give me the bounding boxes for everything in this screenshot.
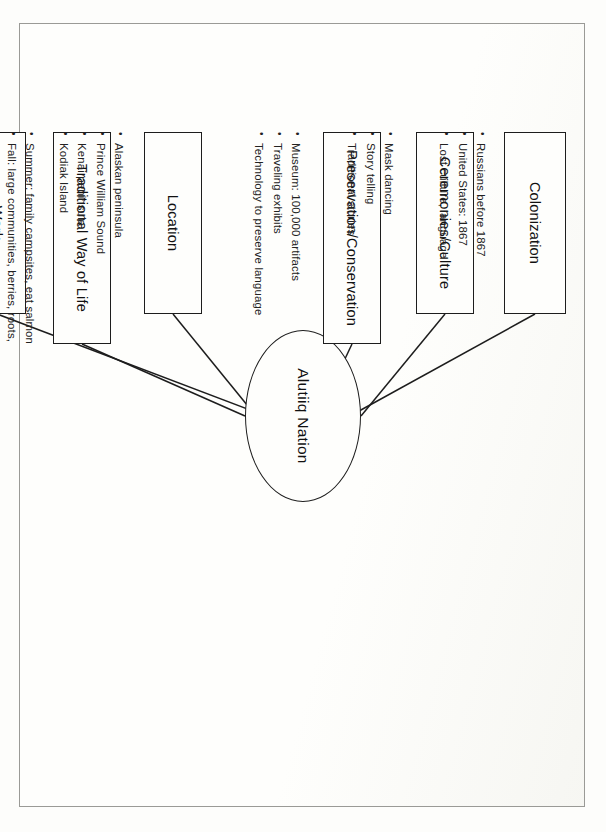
bullet-item: Story telling	[361, 132, 379, 332]
bullet-list-location: Alaskan peninsulaPrince William SoundKen…	[54, 132, 128, 332]
bullet-item: Fall: large communities, berries, roots,…	[0, 132, 21, 367]
bullet-item: Mask dancing	[380, 132, 398, 332]
topic-box-colonization: Colonization	[504, 132, 566, 314]
bullet-item: Kodiak Island	[54, 132, 72, 332]
bullet-list-colonization: Russians before 1867United States: 1867L…	[435, 132, 490, 332]
bullet-item: Summer: family campsites, eat salmon	[21, 132, 39, 367]
diagram-canvas-rotation: Alutiiq Nation Colonization Ceremonies/C…	[20, 24, 586, 808]
bullet-item: Technology to preserve language	[250, 132, 268, 362]
topic-label-location: Location	[165, 195, 181, 251]
bullet-list-ceremonies: Mask dancingStory tellingTraditional sto…	[343, 132, 398, 332]
concept-map: Alutiiq Nation Colonization Ceremonies/C…	[20, 24, 586, 808]
connector-location	[173, 314, 256, 416]
connector-work	[0, 314, 266, 416]
bullet-item: United States: 1867	[453, 132, 471, 332]
bullet-item: Traditional stories	[343, 132, 361, 332]
topic-label-colonization: Colonization	[527, 182, 543, 264]
bullet-item: Traveling exhibits	[268, 132, 286, 362]
bullet-item: Lost culture, language	[435, 132, 453, 332]
center-node-label: Alutiiq Nation	[294, 368, 312, 464]
bullet-list-preservation: Museum: 100,000 artifactsTraveling exhib…	[250, 132, 305, 362]
bullet-item: Kenai peninsula	[73, 132, 91, 332]
topic-box-location: Location	[144, 132, 202, 314]
scanned-page: Alutiiq Nation Colonization Ceremonies/C…	[0, 0, 606, 832]
bullet-item: Museum: 100,000 artifacts	[287, 132, 305, 362]
bullet-item: Alaskan peninsula	[110, 132, 128, 332]
bullet-item: Prince William Sound	[91, 132, 109, 332]
bullet-item: Russians before 1867	[472, 132, 490, 332]
bullet-list-traditional-way-of-life: Summer: family campsites, eat salmonFall…	[0, 132, 39, 367]
